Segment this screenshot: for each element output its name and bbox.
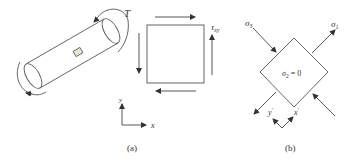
x-axis-label: x [150, 121, 155, 130]
sigma1-label: σ1 [331, 19, 338, 30]
sigma1-arrow-top [312, 30, 335, 53]
caption-a: (a) [127, 143, 137, 153]
torque-label: T [124, 7, 131, 19]
y-axis-label: y [118, 96, 123, 104]
shaft-cylinder [17, 9, 128, 95]
sigma2-label: σ2 = 0 [282, 69, 301, 79]
y-prime-axis [273, 119, 282, 128]
y-prime-label: y′ [267, 107, 274, 117]
panel-b: σ3 σ1 σ2 = 0 y′ x′ (b) [245, 18, 338, 153]
stress-diagram: T τxy y x (a) σ3 σ1 σ2 = 0 y′ x′ (b) [0, 0, 357, 167]
sigma3-label: σ3 [245, 18, 252, 29]
sigma3-arrow-top [253, 28, 276, 52]
shear-element-square [147, 25, 204, 83]
caption-b: (b) [285, 143, 296, 153]
stress-element-marker [73, 47, 83, 56]
x-prime-axis [282, 117, 293, 128]
panel-a: T τxy y x (a) [17, 7, 220, 153]
sigma3-arrow-bottom [313, 94, 335, 116]
shear-stress-label: τxy [211, 22, 220, 33]
x-prime-label: x′ [293, 107, 300, 117]
